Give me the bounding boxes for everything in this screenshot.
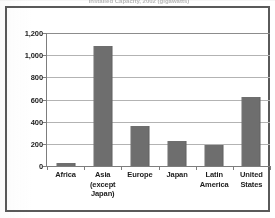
- bar-slot: [121, 33, 158, 166]
- bar-slot: [159, 33, 196, 166]
- x-axis-category-label: Africa: [47, 170, 84, 180]
- x-axis-category-label-line: Japan): [84, 189, 121, 199]
- x-axis-category-label-line: United: [233, 170, 270, 180]
- x-axis-category-label-line: Africa: [47, 170, 84, 180]
- bar[interactable]: [93, 46, 112, 166]
- chart-figure-frame: 02004006008001,0001,200 AfricaAsia(excep…: [5, 6, 270, 212]
- x-axis-category-label: UnitedStates: [233, 170, 270, 189]
- x-axis-category-label-line: (except: [84, 180, 121, 190]
- x-axis-category-label-line: America: [196, 180, 233, 190]
- x-axis-category-label-line: Europe: [121, 170, 158, 180]
- bar-series: [47, 33, 270, 166]
- bar[interactable]: [168, 141, 187, 166]
- y-axis-tick-label: 400: [31, 117, 43, 126]
- bar-slot: [196, 33, 233, 166]
- bar-slot: [47, 33, 84, 166]
- x-axis-category-label: Europe: [121, 170, 158, 180]
- y-axis-tick-label: 800: [31, 73, 43, 82]
- bar-slot: [233, 33, 270, 166]
- y-axis-tick-label: 1,200: [25, 29, 43, 38]
- plot-area: 02004006008001,0001,200 AfricaAsia(excep…: [46, 33, 270, 167]
- y-axis-tick-label: 1,000: [25, 51, 43, 60]
- x-axis-category-label: Japan: [159, 170, 196, 180]
- x-axis-category-label-line: States: [233, 180, 270, 190]
- bar[interactable]: [205, 145, 224, 166]
- y-axis-tick-label: 600: [31, 95, 43, 104]
- bar[interactable]: [242, 97, 261, 166]
- x-axis-category-label: LatinAmerica: [196, 170, 233, 189]
- bar[interactable]: [130, 126, 149, 166]
- chart-title-strip: Installed Capacity, 2002 (gigawatts): [46, 0, 232, 5]
- x-axis-category-label-line: Asia: [84, 170, 121, 180]
- bar-slot: [84, 33, 121, 166]
- x-axis-category-label-line: Latin: [196, 170, 233, 180]
- x-axis-category-label-line: Japan: [159, 170, 196, 180]
- x-axis-category-label: Asia(exceptJapan): [84, 170, 121, 199]
- y-axis-tick-label: 200: [31, 139, 43, 148]
- chart-title: Installed Capacity, 2002 (gigawatts): [46, 0, 232, 5]
- x-axis-tick-mark: [270, 166, 271, 170]
- bar[interactable]: [56, 163, 75, 166]
